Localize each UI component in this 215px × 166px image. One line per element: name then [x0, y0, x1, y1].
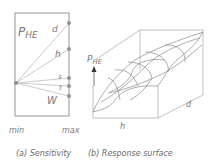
param-label-t: t — [59, 84, 62, 92]
caption-b: (b) Response surface — [88, 149, 173, 158]
param-label-s: s — [58, 73, 62, 81]
axis-max-label: max — [62, 126, 80, 135]
surface-axis-label: PHE — [87, 54, 103, 66]
sensitivity-title: PHE — [18, 25, 38, 40]
origin-dot — [14, 81, 18, 85]
arrow-up-icon — [92, 66, 97, 72]
figure: PHE d h s t W min max — [0, 0, 215, 166]
response-surface-panel: PHE h d — [87, 30, 203, 131]
param-label-h: h — [55, 49, 61, 59]
p-he-axis — [92, 66, 97, 86]
param-label-d: d — [52, 24, 58, 34]
caption-a: (a) Sensitivity — [16, 149, 72, 158]
axis-min-label: min — [9, 126, 24, 135]
param-label-w: W — [47, 95, 58, 106]
surface-x-label: h — [120, 122, 125, 131]
sensitivity-panel: PHE d h s t W min max — [9, 13, 80, 135]
